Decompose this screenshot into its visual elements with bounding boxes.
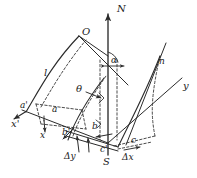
label-angle-theta: θ bbox=[76, 84, 82, 94]
geometry-figure: N S y x x' O n a a' b b' c c' α θ Δx Δy … bbox=[0, 0, 197, 178]
angle-theta-pointer bbox=[86, 92, 104, 103]
label-point-o: O bbox=[82, 27, 90, 37]
label-arc-length-l: l bbox=[44, 68, 47, 78]
label-point-a: a bbox=[52, 105, 57, 114]
label-axis-north: N bbox=[117, 4, 126, 14]
label-axis-x: x bbox=[40, 131, 45, 140]
edge-top-rim bbox=[79, 36, 108, 56]
curve-left-arc-l bbox=[26, 36, 79, 112]
label-axis-x-prime: x' bbox=[11, 119, 19, 129]
axis-y bbox=[108, 78, 182, 143]
figure-vector-canvas bbox=[0, 0, 197, 178]
line-o-to-s-slant bbox=[79, 36, 128, 85]
label-delta-y: Δy bbox=[64, 152, 76, 161]
label-angle-alpha: α bbox=[111, 56, 117, 65]
label-point-n: n bbox=[159, 57, 165, 66]
curve-right-arc bbox=[118, 56, 160, 147]
arrow-delta-y-tick bbox=[88, 138, 89, 152]
label-point-c-prime: c' bbox=[100, 145, 108, 154]
label-point-a-prime: a' bbox=[20, 101, 28, 110]
label-delta-x: Δx bbox=[122, 153, 134, 162]
label-point-c: c bbox=[131, 136, 136, 145]
arrow-b-direction bbox=[96, 134, 112, 137]
label-point-b: b bbox=[92, 122, 98, 131]
dashed-cell-right bbox=[114, 56, 160, 149]
label-axis-y: y bbox=[183, 81, 189, 91]
arrow-delta-y bbox=[77, 136, 79, 152]
label-axis-south: S bbox=[103, 157, 110, 167]
label-point-b-prime: b' bbox=[62, 128, 70, 137]
